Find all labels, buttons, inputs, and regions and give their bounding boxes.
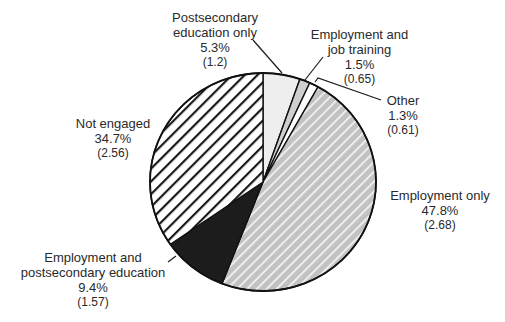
label-percent: 1.3% [378, 108, 428, 123]
label-percent: 5.3% [150, 40, 280, 55]
label-name-line1: Employment and [8, 250, 178, 265]
label-name-line1: Employment only [380, 188, 500, 203]
label-employment-and-job-training: Employment and job training 1.5% (0.65) [302, 27, 417, 87]
label-standard-error: (2.68) [380, 218, 500, 233]
label-standard-error: (1.2) [150, 55, 280, 70]
label-percent: 9.4% [8, 280, 178, 295]
label-name-line1: Not engaged [68, 116, 158, 131]
label-name-line1: Postsecondary [150, 10, 280, 25]
label-other: Other 1.3% (0.61) [378, 93, 428, 138]
label-percent: 34.7% [68, 131, 158, 146]
label-employment-only: Employment only 47.8% (2.68) [380, 188, 500, 233]
label-standard-error: (1.57) [8, 295, 178, 310]
label-standard-error: (2.56) [68, 146, 158, 161]
label-name-line1: Employment and [302, 27, 417, 42]
label-standard-error: (0.65) [302, 72, 417, 87]
label-name-line1: Other [378, 93, 428, 108]
label-standard-error: (0.61) [378, 123, 428, 138]
label-employment-and-postsecondary-education: Employment and postsecondary education 9… [8, 250, 178, 310]
label-postsecondary-education-only: Postsecondary education only 5.3% (1.2) [150, 10, 280, 70]
label-name-line2: education only [150, 25, 280, 40]
label-percent: 47.8% [380, 203, 500, 218]
label-name-line2: postsecondary education [8, 265, 178, 280]
label-name-line2: job training [302, 42, 417, 57]
pie-slices [150, 73, 376, 291]
label-not-engaged: Not engaged 34.7% (2.56) [68, 116, 158, 161]
label-percent: 1.5% [302, 57, 417, 72]
